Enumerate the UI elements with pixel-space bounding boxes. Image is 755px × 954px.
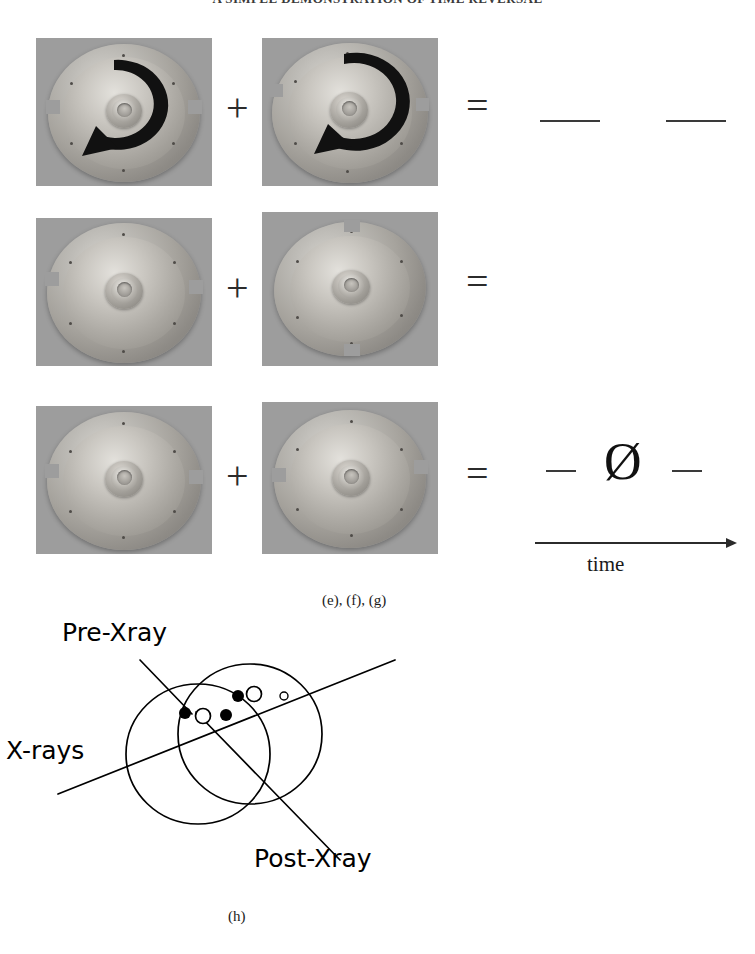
marker-filled-pre-2 [220, 709, 232, 721]
empty-set-symbol: Ø [604, 436, 642, 488]
label-post-xray: Post-Xray [254, 844, 372, 873]
result-dash-row1-b [666, 120, 726, 122]
circle-pre [126, 684, 270, 824]
photo-panel-row1-left [36, 38, 212, 186]
xray-beam-line [58, 660, 395, 794]
plus-operator-row2: + [226, 268, 249, 308]
rotor-disc-image [36, 218, 212, 366]
plus-operator-row1: + [226, 88, 249, 128]
label-pre-xray: Pre-Xray [62, 618, 167, 647]
photo-panel-row2-left [36, 218, 212, 366]
rotor-disc-image [36, 38, 212, 186]
time-axis-arrowhead [726, 538, 737, 548]
marker-open-post-1 [247, 687, 262, 702]
equals-operator-row3: = [466, 454, 489, 494]
equation-row-1: + [0, 0, 755, 200]
photo-panel-row1-right [262, 38, 438, 186]
plus-operator-row3: + [226, 456, 249, 496]
photo-panel-row2-right [262, 212, 438, 366]
time-axis-line [535, 542, 730, 544]
equals-operator-row1: = [466, 86, 489, 126]
circle-post [178, 664, 322, 804]
rotor-disc-image-tilted [262, 212, 438, 366]
xray-schematic-figure: Pre-Xray X-rays Post-Xray (h) [0, 612, 500, 912]
equation-row-2: + = [0, 178, 755, 378]
result-dash-row1-a [540, 120, 600, 122]
figure-caption-efg: (e), (f), (g) [322, 592, 386, 609]
equals-operator-row2: = [466, 262, 489, 302]
photo-panel-row3-left [36, 406, 212, 554]
figure-caption-h: (h) [228, 908, 246, 925]
pre-xray-leader [140, 660, 192, 714]
rotor-disc-image [262, 402, 438, 554]
marker-filled-post-1 [232, 690, 244, 702]
equation-row-3: + = Ø [0, 358, 755, 568]
time-axis-label: time [587, 552, 624, 577]
rotor-disc-image [262, 38, 438, 186]
label-xrays: X-rays [6, 736, 84, 765]
photo-panel-row3-right [262, 402, 438, 554]
marker-open-post-2 [280, 692, 288, 700]
equation-figure: + [0, 0, 755, 600]
marker-open-pre-1 [196, 709, 211, 724]
marker-filled-pre-1 [179, 707, 191, 719]
rotor-disc-image [36, 406, 212, 554]
